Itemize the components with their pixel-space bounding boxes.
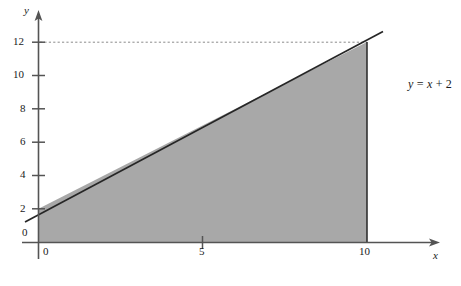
y-tick-label-4: 4	[20, 168, 26, 180]
graph-figure: 12 10 8 6 4 2 0 0 5 10 y x y=x+2	[0, 0, 461, 286]
x-tick-label-5: 5	[199, 245, 205, 257]
equation-equals: =	[417, 77, 424, 91]
y-tick-label-6: 6	[20, 135, 26, 147]
y-tick-label-10: 10	[13, 68, 24, 80]
equation-label: y=x+2	[408, 77, 452, 92]
y-tick-label-8: 8	[20, 102, 26, 114]
equation-variable: x	[427, 77, 433, 91]
x-axis-label: x	[433, 249, 438, 261]
y-tick-label-12: 12	[13, 35, 24, 47]
y-tick-label-0: 0	[22, 226, 28, 238]
x-tick-label-0: 0	[43, 245, 49, 257]
equation-constant: 2	[446, 77, 452, 91]
shaded-area-region	[38, 42, 367, 242]
y-tick-label-2: 2	[20, 202, 26, 214]
coordinate-plane-svg	[0, 0, 461, 286]
y-axis-label: y	[24, 4, 29, 16]
equation-lhs: y	[408, 77, 414, 91]
equation-plus: +	[436, 77, 443, 91]
x-tick-label-10: 10	[359, 245, 370, 257]
